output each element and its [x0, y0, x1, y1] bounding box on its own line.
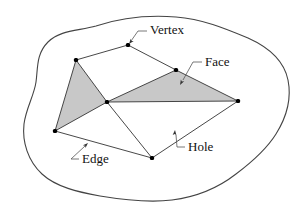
v-left	[53, 129, 57, 133]
faces-layer	[55, 60, 238, 131]
label-face: Face	[205, 54, 230, 69]
v-bottom	[150, 156, 154, 160]
figure-canvas: Vertex Face Edge Hole	[0, 0, 306, 217]
edge-center-bottom	[107, 102, 152, 158]
v-upper-right	[174, 68, 178, 72]
face-left	[55, 60, 107, 131]
v-top-left	[74, 58, 78, 62]
v-center	[105, 100, 109, 104]
polygon-mesh-diagram: Vertex Face Edge Hole	[0, 0, 306, 217]
face-right	[107, 70, 238, 102]
edge-topleft-top	[76, 45, 128, 60]
v-right	[236, 99, 240, 103]
arrowhead-hole	[173, 130, 177, 136]
label-hole: Hole	[188, 139, 214, 154]
leader-line-vertex	[131, 31, 147, 41]
edge-top-upperright	[128, 45, 176, 70]
label-vertex: Vertex	[150, 22, 184, 37]
label-edge: Edge	[82, 151, 109, 166]
